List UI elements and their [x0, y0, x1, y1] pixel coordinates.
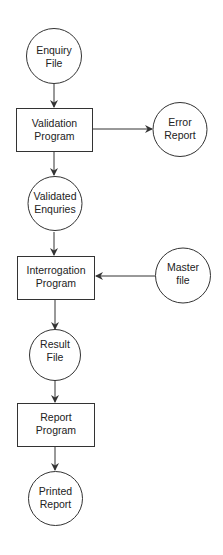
node-label-line1: Interrogation: [27, 264, 86, 276]
node-label-line1: Printed: [39, 485, 72, 497]
node-enquiry-file: Enquiry File: [27, 29, 82, 84]
node-label-line2: Enquries: [34, 203, 75, 215]
node-error-report: Error Report: [153, 103, 207, 157]
node-label-line1: Error: [168, 116, 192, 128]
node-label-line1: Validated: [33, 190, 76, 202]
node-printed-report: Printed Report: [29, 472, 83, 526]
node-label-line2: Program: [34, 130, 75, 142]
node-label-line1: Enquiry: [36, 44, 72, 56]
node-label-line2: Report: [164, 129, 196, 141]
node-label-line1: Report: [40, 411, 72, 423]
node-label-line2: File: [46, 57, 63, 69]
node-validation-program: Validation Program: [17, 109, 93, 152]
node-label-line1: Master: [167, 261, 200, 273]
node-label-line1: Result: [40, 338, 70, 350]
file-circle: [27, 29, 82, 84]
node-label-line2: Program: [36, 424, 77, 436]
node-label-line2: Program: [36, 277, 77, 289]
node-label-line1: Validation: [32, 117, 77, 129]
node-label-line2: file: [176, 274, 190, 286]
node-label-line2: File: [47, 351, 64, 363]
node-master-file: Master file: [156, 248, 211, 303]
flowchart-canvas: Enquiry File Validation Program Error Re…: [0, 0, 223, 555]
node-label-line2: Report: [40, 498, 72, 510]
node-interrogation-program: Interrogation Program: [18, 257, 95, 300]
node-report-program: Report Program: [18, 404, 95, 447]
node-validated-enquiries: Validated Enquries: [28, 177, 82, 231]
node-result-file: Result File: [30, 330, 81, 381]
